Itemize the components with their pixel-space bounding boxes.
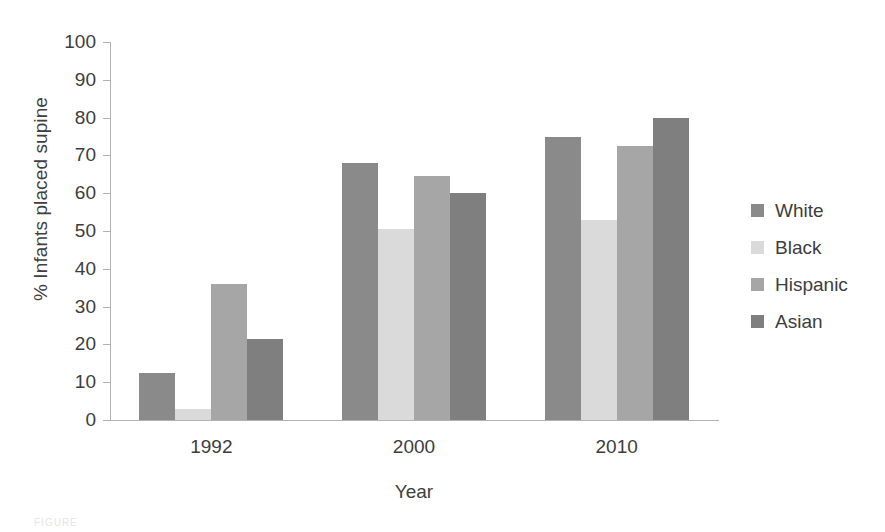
y-axis-tick-label: 50 [36,221,96,240]
bar-white-2000 [342,163,378,420]
caption-remnant: FIGURE [34,517,78,528]
legend-swatch-icon [751,315,764,328]
bar-black-2010 [581,220,617,420]
legend-item-black[interactable]: Black [751,229,848,266]
legend-swatch-icon [751,241,764,254]
legend-swatch-icon [751,204,764,217]
y-axis-tick-label: 60 [36,183,96,202]
plot-area [110,42,718,420]
y-axis-tick-label: 90 [36,70,96,89]
bar-hispanic-2010 [617,146,653,420]
bar-chart-figure: % Infants placed supine 1009080706050403… [0,0,885,532]
y-axis-tick-label: 40 [36,259,96,278]
x-axis-line [110,420,719,421]
legend-item-label: Black [775,237,821,259]
bar-asian-2010 [653,118,689,420]
legend-item-asian[interactable]: Asian [751,303,848,340]
y-axis-tick-label: 20 [36,334,96,353]
legend-swatch-icon [751,278,764,291]
y-axis-tick-label: 80 [36,108,96,127]
bar-white-2010 [545,137,581,421]
bar-hispanic-2000 [414,176,450,420]
legend-item-white[interactable]: White [751,192,848,229]
bar-black-1992 [175,409,211,420]
y-axis-tick-label: 70 [36,145,96,164]
bar-asian-2000 [450,193,486,420]
bar-hispanic-1992 [211,284,247,420]
legend-item-hispanic[interactable]: Hispanic [751,266,848,303]
y-axis-tick-label: 0 [36,410,96,429]
legend-item-label: White [775,200,824,222]
y-axis-tick-label: 10 [36,372,96,391]
x-axis-tick-label-2010: 2010 [557,436,677,458]
x-axis-title: Year [110,481,718,503]
bar-black-2000 [378,229,414,420]
x-axis-tick-label-1992: 1992 [151,436,271,458]
bar-white-1992 [139,373,175,420]
legend-item-label: Asian [775,311,823,333]
y-axis-tick-label: 100 [36,32,96,51]
legend: WhiteBlackHispanicAsian [751,192,848,340]
bar-asian-1992 [247,339,283,420]
legend-item-label: Hispanic [775,274,848,296]
x-axis-tick-label-2000: 2000 [354,436,474,458]
y-axis-tick-label: 30 [36,297,96,316]
y-axis-tick [103,420,111,421]
